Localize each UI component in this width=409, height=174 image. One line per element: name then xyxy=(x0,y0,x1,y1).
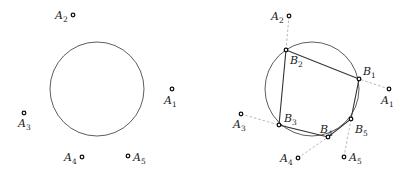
panel-right: A1A2A3A4A5B1B2B3B4B5 xyxy=(232,10,394,167)
point-a4 xyxy=(80,155,84,159)
label-a2: A2 xyxy=(54,9,68,24)
label-a3: A3 xyxy=(17,117,31,132)
projection-line-a4 xyxy=(298,137,328,158)
label-a5: A5 xyxy=(348,151,362,166)
point-a5 xyxy=(126,154,130,158)
point-a3 xyxy=(239,112,243,116)
point-b3 xyxy=(277,123,281,127)
point-a5 xyxy=(342,155,346,159)
point-b5 xyxy=(349,117,353,121)
label-b5: B5 xyxy=(354,123,368,138)
label-a4: A4 xyxy=(279,152,293,167)
point-a2 xyxy=(287,14,291,18)
point-b1 xyxy=(357,77,361,81)
point-a3 xyxy=(22,111,26,115)
point-b2 xyxy=(284,48,288,52)
label-a3: A3 xyxy=(232,118,246,133)
circle xyxy=(50,42,144,136)
label-b1: B1 xyxy=(362,65,376,80)
label-b4: B4 xyxy=(319,123,333,138)
label-a5: A5 xyxy=(132,151,146,166)
projection-line-a1 xyxy=(359,79,389,89)
label-a2: A2 xyxy=(270,10,284,25)
point-a2 xyxy=(71,13,75,17)
label-a1: A1 xyxy=(163,94,177,109)
diagram-canvas: A1A2A3A4A5A1A2A3A4A5B1B2B3B4B5 xyxy=(0,0,409,174)
label-a4: A4 xyxy=(63,151,77,166)
label-a1: A1 xyxy=(380,94,394,109)
point-a1 xyxy=(387,87,391,91)
point-a1 xyxy=(170,87,174,91)
point-a4 xyxy=(296,156,300,160)
panel-left: A1A2A3A4A5 xyxy=(17,9,177,166)
projection-line-a2 xyxy=(286,16,289,50)
label-b3: B3 xyxy=(283,112,297,127)
